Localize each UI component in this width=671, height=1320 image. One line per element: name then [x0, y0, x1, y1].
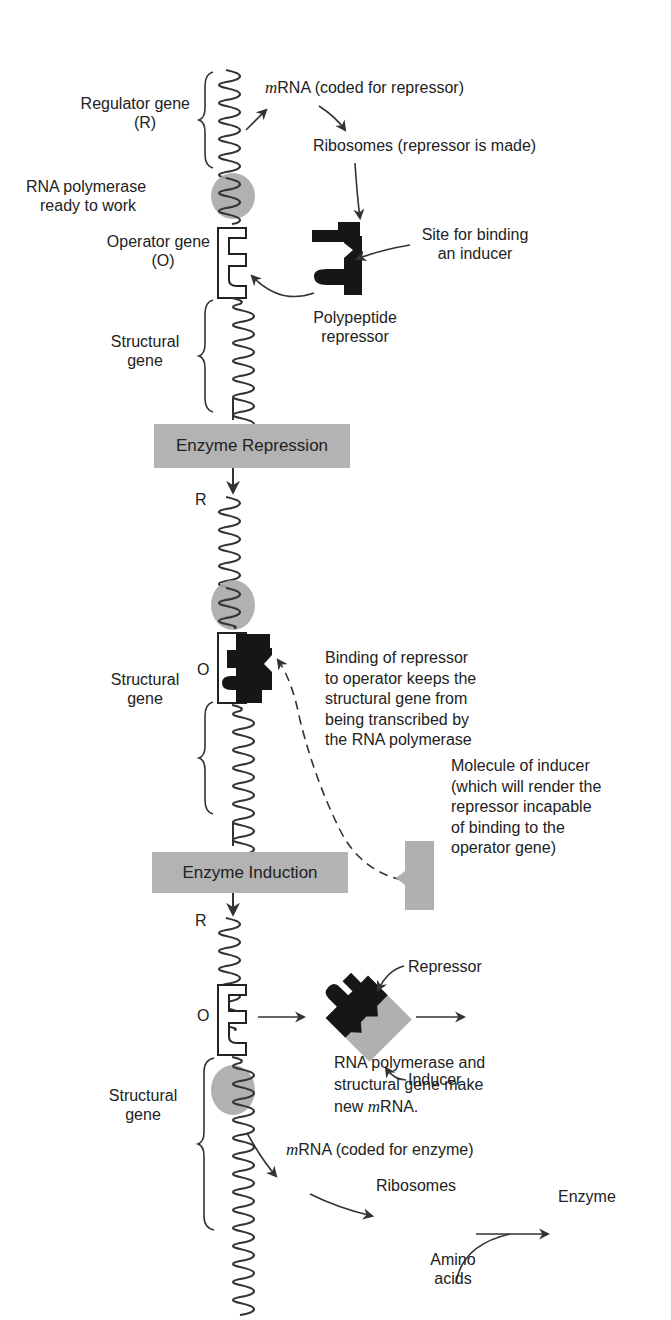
polypeptide-repressor-label: Polypeptide repressor: [290, 308, 420, 346]
note-post: RNA.: [380, 1098, 418, 1115]
binding-note-line5: the RNA polymerase: [325, 730, 476, 751]
mrna-rest: RNA (coded for repressor): [277, 79, 464, 96]
repressor-label: Repressor: [408, 957, 482, 976]
structural-gene-label-middle: Structural gene: [100, 670, 190, 708]
structural-gene-label-bottom: Structural gene: [98, 1086, 188, 1124]
r-label-bottom: R: [195, 911, 207, 930]
structural-gene-brace: [199, 300, 213, 412]
amino-acids-line2: acids: [418, 1269, 488, 1288]
operator-gene-line2: (O): [60, 251, 210, 270]
inducer-note-line1: Molecule of inducer: [451, 756, 601, 777]
mrna-enzyme-rest: RNA (coded for enzyme): [298, 1141, 473, 1158]
rna-polymerase-label: RNA polymerase ready to work: [26, 177, 146, 215]
mrna-to-ribosomes-arrow-bottom: [310, 1194, 372, 1216]
site-binding-line2: an inducer: [400, 244, 550, 263]
structural-gene-strand-middle: [232, 705, 254, 873]
mrna-enzyme-arrow: [247, 1133, 276, 1176]
polymerase-note: RNA polymerase and structural gene make …: [334, 1052, 485, 1118]
enzyme-repression-box: Enzyme Repression: [154, 424, 350, 468]
structural-gene-brace-middle: [199, 702, 213, 814]
structural-gene-line2: gene: [100, 351, 190, 370]
inducer-molecule-note: Molecule of inducer (which will render t…: [451, 756, 601, 859]
structural-gene-bottom-line1: Structural: [98, 1086, 188, 1105]
polypeptide-repressor-shape: [312, 222, 362, 295]
binding-note-line2: to operator keeps the: [325, 669, 476, 690]
ribosomes-label-bottom: Ribosomes: [376, 1176, 456, 1195]
mrna-to-ribosomes-arrow: [319, 106, 345, 130]
inducer-note-line4: of binding to the: [451, 818, 601, 839]
operator-gene-label: Operator gene (O): [60, 232, 210, 270]
regulator-gene-label-line2: (R): [40, 113, 190, 132]
binding-note: Binding of repressor to operator keeps t…: [325, 648, 476, 751]
operator-gene-box-bottom: [218, 985, 246, 1055]
o-label-middle: O: [197, 660, 209, 679]
structural-gene-middle-line1: Structural: [100, 670, 190, 689]
polypeptide-line2: repressor: [290, 327, 420, 346]
note-pre: new: [334, 1098, 368, 1115]
polypeptide-line1: Polypeptide: [290, 308, 420, 327]
structural-gene-label: Structural gene: [100, 332, 190, 370]
repressor-to-operator-arrow: [252, 276, 314, 297]
inducer-note-line5: operator gene): [451, 838, 601, 859]
operator-gene-box: [218, 228, 246, 298]
ribosomes-label: Ribosomes (repressor is made): [313, 136, 536, 155]
binding-note-line1: Binding of repressor: [325, 648, 476, 669]
enzyme-label: Enzyme: [558, 1187, 616, 1206]
rna-polymerase-circle-middle: [211, 580, 255, 630]
regulator-gene-brace: [199, 72, 213, 168]
note-italic: m: [368, 1097, 380, 1116]
mrna-arrow: [246, 110, 266, 130]
repressor-inducer-complex: [311, 961, 411, 1061]
mrna-repressor-label: mRNA (coded for repressor): [265, 78, 464, 97]
polymerase-note-line2: structural gene make: [334, 1074, 485, 1096]
rna-polymerase-line2: ready to work: [26, 196, 146, 215]
repressor-pointer-arrow: [378, 966, 404, 990]
structural-gene-bottom-line2: gene: [98, 1105, 188, 1124]
enzyme-induction-box: Enzyme Induction: [152, 852, 348, 893]
operator-gene-line1: Operator gene: [60, 232, 210, 251]
regulator-gene-label: Regulator gene (R): [40, 94, 190, 132]
site-binding-label: Site for binding an inducer: [400, 225, 550, 263]
polymerase-note-line1: RNA polymerase and: [334, 1052, 485, 1074]
polymerase-note-line3: new mRNA.: [334, 1096, 485, 1118]
enzyme-regulation-diagram: Regulator gene (R) mRNA (coded for repre…: [0, 0, 671, 1320]
binding-note-line4: being transcribed by: [325, 710, 476, 731]
inducer-note-line2: (which will render the: [451, 777, 601, 798]
inducer-molecule: [396, 841, 434, 910]
o-label-bottom: O: [197, 1006, 209, 1025]
mrna-enzyme-label: mRNA (coded for enzyme): [286, 1140, 473, 1159]
structural-gene-line1: Structural: [100, 332, 190, 351]
mrna-enzyme-italic: m: [286, 1140, 298, 1159]
site-binding-line1: Site for binding: [400, 225, 550, 244]
structural-gene-middle-line2: gene: [100, 689, 190, 708]
binding-note-line3: structural gene from: [325, 689, 476, 710]
amino-acids-label: Amino acids: [418, 1250, 488, 1288]
amino-acids-line1: Amino: [418, 1250, 488, 1269]
rna-polymerase-line1: RNA polymerase: [26, 177, 146, 196]
regulator-gene-label-line1: Regulator gene: [40, 94, 190, 113]
ribosomes-to-repressor-arrow: [355, 163, 360, 218]
structural-gene-brace-bottom: [198, 1058, 214, 1230]
mrna-italic: m: [265, 78, 277, 97]
r-label-middle: R: [195, 490, 207, 509]
inducer-note-line3: repressor incapable: [451, 797, 601, 818]
